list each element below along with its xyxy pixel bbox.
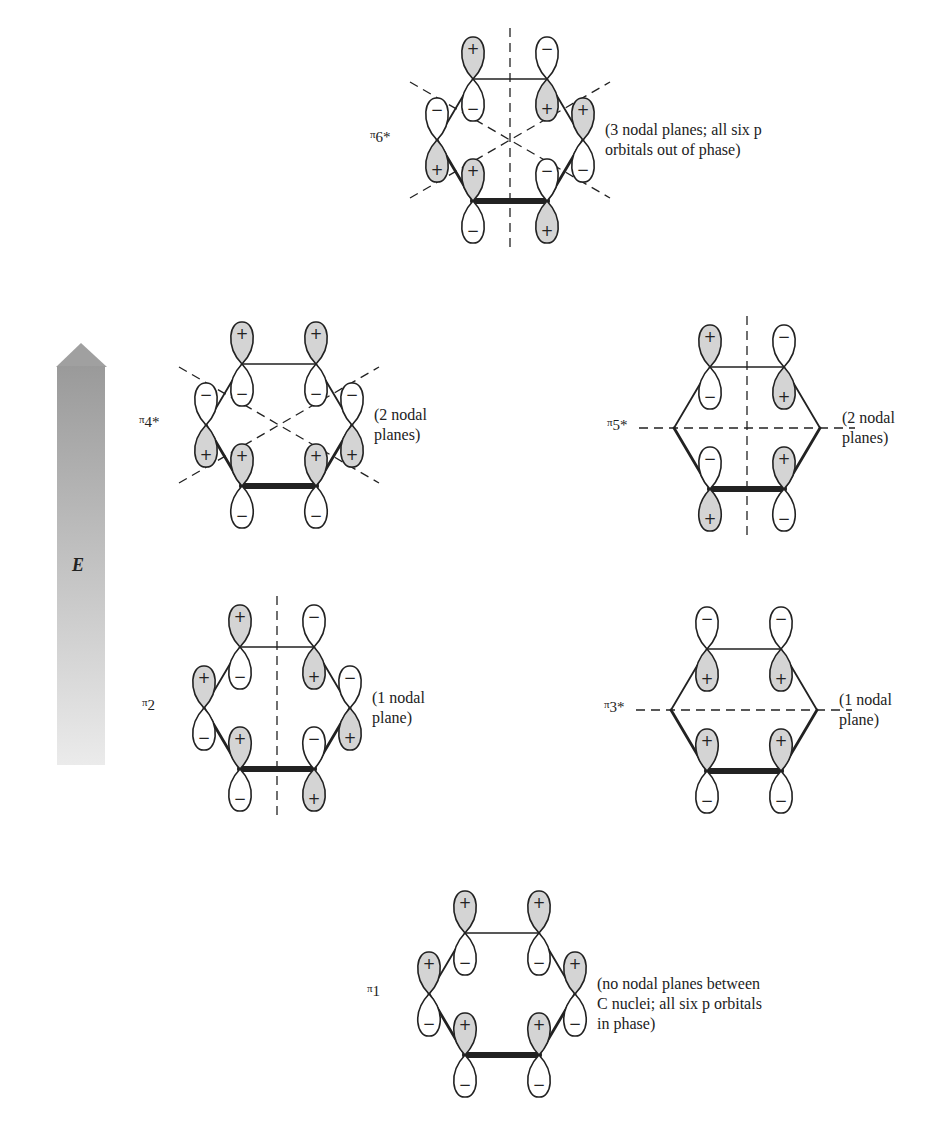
orbital-index: 3* (610, 699, 625, 715)
phase-sign: − (459, 1076, 472, 1094)
phase-sign: + (308, 790, 321, 808)
phase-sign: − (459, 954, 472, 972)
orbital-name-pi3: π3* (604, 698, 625, 716)
phase-sign: + (459, 894, 472, 912)
description-line: in phase) (597, 1014, 762, 1034)
phase-sign: + (234, 730, 247, 748)
phase-sign: − (541, 162, 554, 180)
phase-sign: − (344, 669, 357, 687)
description-line: planes) (374, 425, 427, 445)
phase-sign: − (234, 668, 247, 686)
phase-sign: − (577, 161, 590, 179)
phase-sign: + (236, 447, 249, 465)
description-line: (2 nodal (842, 408, 895, 428)
phase-sign: − (308, 608, 321, 626)
phase-sign: + (533, 894, 546, 912)
description-line: plane) (372, 708, 425, 728)
orbital-pi3: −+−++−+− (636, 607, 852, 813)
description-line: (3 nodal planes; all six p (605, 120, 762, 140)
description-line: (2 nodal (374, 405, 427, 425)
orbital-name-pi1: π1 (367, 982, 380, 1000)
phase-sign: − (704, 450, 717, 468)
phase-sign: + (775, 670, 788, 688)
phase-sign: + (467, 162, 480, 180)
phase-sign: − (701, 792, 714, 810)
phase-sign: + (701, 670, 714, 688)
phase-sign: + (704, 328, 717, 346)
phase-sign: + (236, 325, 249, 343)
description-line: C nuclei; all six p orbitals (597, 994, 762, 1014)
phase-sign: + (569, 955, 582, 973)
orbital-name-pi4: π4* (139, 413, 160, 431)
phase-sign: − (778, 510, 791, 528)
description-line: (1 nodal (372, 688, 425, 708)
description-line: (1 nodal (839, 690, 892, 710)
phase-sign: + (778, 388, 791, 406)
energy-arrow (56, 343, 107, 765)
orbital-pi4: +−+−−+−++−+− (179, 322, 379, 528)
phase-sign: − (467, 100, 480, 118)
phase-sign: − (569, 1015, 582, 1033)
phase-sign: + (344, 729, 357, 747)
orbital-name-pi6: π6* (370, 128, 391, 146)
phase-sign: − (198, 729, 211, 747)
phase-sign: + (467, 40, 480, 58)
orbital-name-pi5: π5* (607, 416, 628, 434)
phase-sign: − (234, 790, 247, 808)
phase-sign: + (234, 608, 247, 626)
phase-sign: + (701, 732, 714, 750)
phase-sign: + (778, 450, 791, 468)
phase-sign: + (310, 447, 323, 465)
phase-sign: − (533, 954, 546, 972)
orbital-index: 2 (148, 697, 156, 713)
orbital-pi2: +−−++−−++−−+ (193, 596, 361, 820)
orbital-description-pi1: (no nodal planes betweenC nuclei; all si… (597, 974, 762, 1034)
phase-sign: + (198, 669, 211, 687)
orbital-description-pi5: (2 nodalplanes) (842, 408, 895, 448)
orbital-pi1: +−+−+−+−+−+− (418, 891, 586, 1097)
orbital-diagram-canvas: +−−+−++−+−−++−+−−+−++−+−+−−+−++−+−−++−−+… (0, 0, 949, 1147)
phase-sign: + (577, 101, 590, 119)
phase-sign: − (308, 730, 321, 748)
phase-sign: + (704, 510, 717, 528)
phase-sign: + (310, 325, 323, 343)
phase-sign: + (459, 1016, 472, 1034)
benzene-mo-diagram: +−−+−++−+−−++−+−−+−++−+−+−−+−++−+−−++−−+… (0, 0, 949, 1147)
orbital-index: 6* (376, 129, 391, 145)
phase-sign: − (431, 101, 444, 119)
description-line: (no nodal planes between (597, 974, 762, 994)
description-line: plane) (839, 710, 892, 730)
phase-sign: − (541, 40, 554, 58)
orbital-description-pi6: (3 nodal planes; all six porbitals out o… (605, 120, 762, 160)
orbital-index: 4* (145, 414, 160, 430)
phase-sign: − (778, 328, 791, 346)
description-line: orbitals out of phase) (605, 140, 762, 160)
energy-axis-label: E (72, 555, 84, 576)
phase-sign: + (533, 1016, 546, 1034)
phase-sign: − (200, 386, 213, 404)
orbital-description-pi4: (2 nodalplanes) (374, 405, 427, 445)
phase-sign: + (200, 446, 213, 464)
phase-sign: + (541, 222, 554, 240)
phase-sign: − (704, 388, 717, 406)
orbital-description-pi3: (1 nodalplane) (839, 690, 892, 730)
phase-sign: + (431, 161, 444, 179)
phase-sign: − (775, 610, 788, 628)
orbital-name-pi2: π2 (142, 696, 155, 714)
orbital-index: 1 (373, 983, 381, 999)
phase-sign: − (701, 610, 714, 628)
orbital-index: 5* (613, 417, 628, 433)
phase-sign: − (310, 507, 323, 525)
description-line: planes) (842, 428, 895, 448)
phase-sign: − (775, 792, 788, 810)
phase-sign: + (423, 955, 436, 973)
phase-sign: − (533, 1076, 546, 1094)
phase-sign: + (346, 446, 359, 464)
phase-sign: + (308, 668, 321, 686)
phase-sign: + (775, 732, 788, 750)
orbital-description-pi2: (1 nodalplane) (372, 688, 425, 728)
phase-sign: + (541, 100, 554, 118)
orbital-pi5: +−−+−++− (639, 316, 855, 540)
phase-sign: − (346, 386, 359, 404)
orbital-pi6: +−−+−++−+−−+ (410, 28, 610, 252)
